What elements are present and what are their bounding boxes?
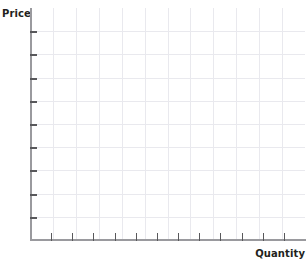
grid-line-vertical [213,8,214,240]
y-axis-tick [30,124,37,126]
grid-line-vertical [76,8,77,240]
y-axis-tick [30,54,37,56]
x-axis-tick [51,233,52,241]
price-quantity-chart: Price Quantity [0,0,308,262]
grid-line-vertical [282,8,283,240]
x-axis-tick [263,233,264,241]
grid-line-vertical [122,8,123,240]
grid-line-vertical [259,8,260,240]
x-axis-tick [115,233,116,241]
y-axis-tick [30,31,37,33]
y-axis-tick [30,194,37,196]
y-axis-tick [30,101,37,103]
x-axis-tick [178,233,179,241]
x-axis-tick [284,233,285,241]
y-axis-tick [30,78,37,80]
grid-line-vertical [190,8,191,240]
x-axis-tick [199,233,200,241]
x-axis-title: Quantity [255,248,305,260]
grid-line-vertical [236,8,237,240]
x-axis-tick [157,233,158,241]
grid-line-vertical [168,8,169,240]
x-axis-tick [220,233,221,241]
y-axis-tick [30,147,37,149]
x-axis-tick [72,233,73,241]
x-axis-tick [242,233,243,241]
y-axis-title: Price [2,8,31,20]
x-axis-tick [93,233,94,241]
y-axis-tick [30,217,37,219]
grid-line-vertical [145,8,146,240]
x-axis-tick [136,233,137,241]
grid-line-vertical [99,8,100,240]
plot-area [30,8,305,240]
grid-line-vertical [53,8,54,240]
y-axis-tick [30,170,37,172]
